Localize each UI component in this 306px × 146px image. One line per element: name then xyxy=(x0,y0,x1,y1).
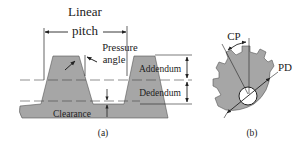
label-addendum: Addendum xyxy=(139,64,182,74)
panel-b-spur-gear: CP PD (b) xyxy=(213,30,292,139)
label-linear: Linear xyxy=(68,4,103,19)
caption-b: (b) xyxy=(246,128,257,139)
label-pressure: Pressure xyxy=(102,42,138,53)
label-angle: angle xyxy=(103,54,126,65)
label-dedendum: Dedendum xyxy=(139,88,181,98)
caption-a: (a) xyxy=(98,128,109,139)
panel-a-rack-profile: Linear pitch Pressure angle Addendum Ded… xyxy=(19,4,192,139)
label-pd: PD xyxy=(278,61,292,73)
gear-terminology-diagram: Linear pitch Pressure angle Addendum Ded… xyxy=(0,0,306,146)
label-cp: CP xyxy=(227,30,240,42)
label-pitch: pitch xyxy=(72,23,98,38)
label-clearance: Clearance xyxy=(53,109,91,119)
